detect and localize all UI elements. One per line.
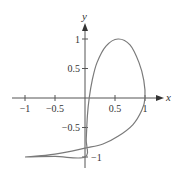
axes (12, 23, 164, 168)
y-tick-label: −0.5 (62, 122, 80, 133)
y-axis-arrow-icon (82, 23, 88, 31)
y-tick-label: −1 (91, 152, 102, 163)
y-axis-label: y (81, 10, 87, 22)
y-tick-label: 0.5 (68, 63, 81, 74)
x-tick-label: −1 (20, 103, 31, 114)
y-tick-label: 1 (75, 34, 80, 45)
x-tick-label: 1 (143, 103, 148, 114)
x-axis-arrow-icon (156, 95, 164, 101)
x-tick-label: 0.5 (109, 103, 122, 114)
plot-area: −1−0.50.5110.5−0.5−1 x y (0, 0, 176, 180)
chart: −1−0.50.5110.5−0.5−1 x y (0, 0, 176, 180)
x-tick-label: −0.5 (46, 103, 64, 114)
x-axis-label: x (165, 91, 171, 103)
